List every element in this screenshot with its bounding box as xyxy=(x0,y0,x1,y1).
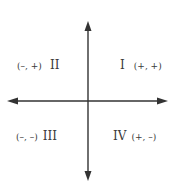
quadrant-2-label: (–, +) II xyxy=(17,56,59,72)
x-axis-left-arrow-icon xyxy=(7,98,18,105)
y-axis-down-arrow-icon xyxy=(85,171,92,181)
quadrant-2-signs: (–, +) xyxy=(17,61,42,71)
quadrant-3-label: (–, –) III xyxy=(16,127,57,143)
quadrant-1-signs: (+, +) xyxy=(134,61,162,71)
quadrant-1-numeral: I xyxy=(120,58,125,72)
quadrant-4-numeral: IV xyxy=(113,129,126,143)
quadrant-3-signs: (–, –) xyxy=(16,132,38,142)
quadrant-4-label: IV (+, –) xyxy=(113,127,156,143)
axes-graphic xyxy=(0,0,176,195)
x-axis-right-arrow-icon xyxy=(157,98,168,105)
y-axis-up-arrow-icon xyxy=(85,21,92,31)
coordinate-plane-diagram: (–, +) II I (+, +) (–, –) III IV (+, –) xyxy=(0,0,176,195)
quadrant-3-numeral: III xyxy=(43,129,57,143)
quadrant-1-label: I (+, +) xyxy=(120,56,162,72)
quadrant-2-numeral: II xyxy=(50,58,59,72)
quadrant-4-signs: (+, –) xyxy=(132,132,157,142)
